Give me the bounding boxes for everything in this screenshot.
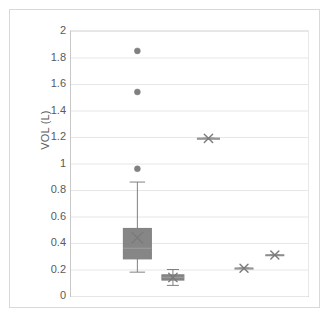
outlier-point <box>134 89 140 95</box>
box-plot-group <box>197 134 219 142</box>
y-axis-tick-label: 1.8 <box>36 51 66 63</box>
y-axis-tick-label: 1 <box>36 157 66 169</box>
box-plot-group <box>162 270 184 286</box>
y-axis-tick-label: 1.4 <box>36 104 66 116</box>
y-axis-tick-label: 0.4 <box>36 236 66 248</box>
plot-area <box>70 30 309 297</box>
plot-svg-layer <box>71 31 308 296</box>
y-axis-tick-label: 0 <box>36 289 66 301</box>
y-axis-tick-labels: 21.81.61.41.210.80.60.40.20 <box>36 0 66 317</box>
y-axis-tick-label: 0.2 <box>36 263 66 275</box>
outlier-point <box>134 166 140 172</box>
box-plot-group <box>123 48 151 272</box>
y-axis-tick-label: 0.8 <box>36 183 66 195</box>
y-axis-tick-label: 1.6 <box>36 77 66 89</box>
y-axis-tick-label: 1.2 <box>36 130 66 142</box>
box-plot-group <box>235 264 253 272</box>
boxplot-chart: VOL (L) 21.81.61.41.210.80.60.40.20 <box>0 0 329 317</box>
outlier-point <box>134 48 140 54</box>
y-axis-tick-label: 0.6 <box>36 210 66 222</box>
box-body <box>123 228 151 258</box>
y-axis-tick-label: 2 <box>36 24 66 36</box>
box-plot-group <box>266 251 284 259</box>
